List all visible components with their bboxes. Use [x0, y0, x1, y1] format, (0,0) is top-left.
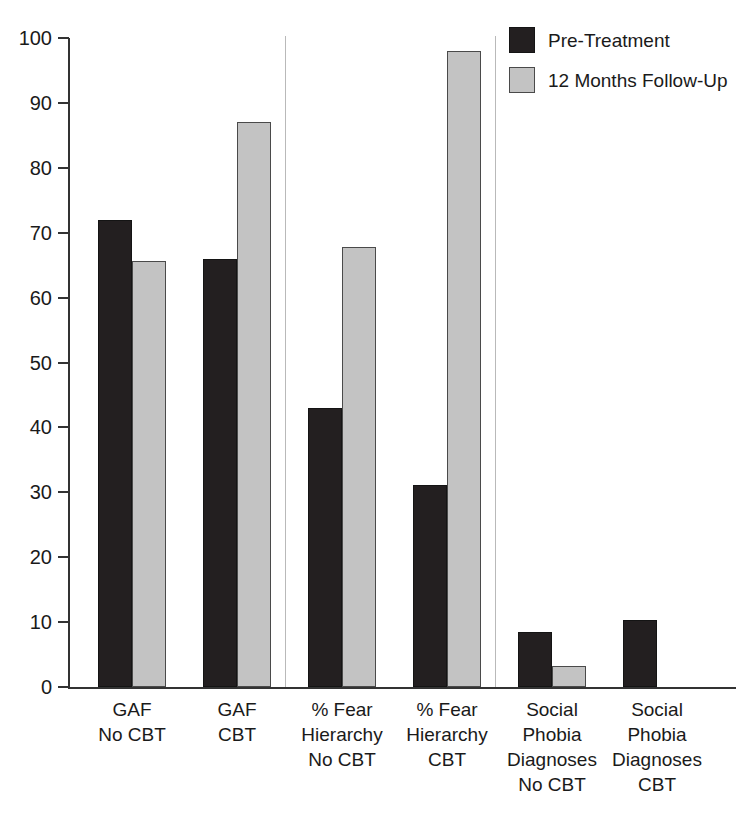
y-tick-label: 100 — [19, 28, 52, 48]
y-tick-mark — [58, 491, 69, 493]
y-tick-label: 50 — [30, 353, 52, 373]
legend-label: Pre-Treatment — [548, 31, 670, 50]
group-separator-line — [495, 36, 496, 687]
y-tick-mark — [58, 556, 69, 558]
y-tick-mark — [58, 297, 69, 299]
x-axis-line — [68, 687, 736, 689]
y-tick-mark — [58, 167, 69, 169]
y-tick-mark — [58, 362, 69, 364]
y-tick-mark — [58, 102, 69, 104]
y-tick-label: 10 — [30, 612, 52, 632]
legend-item-pre-treatment: Pre-Treatment — [509, 24, 728, 56]
y-tick-label: 70 — [30, 223, 52, 243]
bar — [132, 261, 166, 687]
bar-chart: 0102030405060708090100 GAF No CBTGAF CBT… — [0, 0, 744, 821]
group-separator-line — [285, 36, 286, 687]
y-tick-mark — [58, 232, 69, 234]
y-tick-mark — [58, 426, 69, 428]
y-tick-label: 0 — [41, 677, 52, 697]
bar — [413, 485, 447, 687]
y-tick-label: 90 — [30, 93, 52, 113]
bar — [237, 122, 271, 687]
bar — [623, 620, 657, 687]
y-tick-mark — [58, 621, 69, 623]
legend-swatch-icon — [509, 27, 535, 53]
legend-label: 12 Months Follow-Up — [548, 71, 728, 90]
bar — [203, 259, 237, 687]
bar — [342, 247, 376, 687]
y-tick-label: 40 — [30, 417, 52, 437]
y-tick-label: 20 — [30, 547, 52, 567]
legend-item-12-months-follow-up: 12 Months Follow-Up — [509, 64, 728, 96]
bar — [552, 666, 586, 687]
bar — [518, 632, 552, 687]
bar — [308, 408, 342, 687]
y-tick-mark — [58, 686, 69, 688]
bar — [98, 220, 132, 687]
y-tick-label: 80 — [30, 158, 52, 178]
y-tick-label: 30 — [30, 482, 52, 502]
y-tick-label: 60 — [30, 288, 52, 308]
legend-swatch-icon — [509, 67, 535, 93]
legend: Pre-Treatment 12 Months Follow-Up — [509, 24, 728, 104]
x-axis-category-label: Social Phobia Diagnoses CBT — [587, 697, 727, 797]
bar — [447, 51, 481, 687]
y-tick-mark — [58, 37, 69, 39]
